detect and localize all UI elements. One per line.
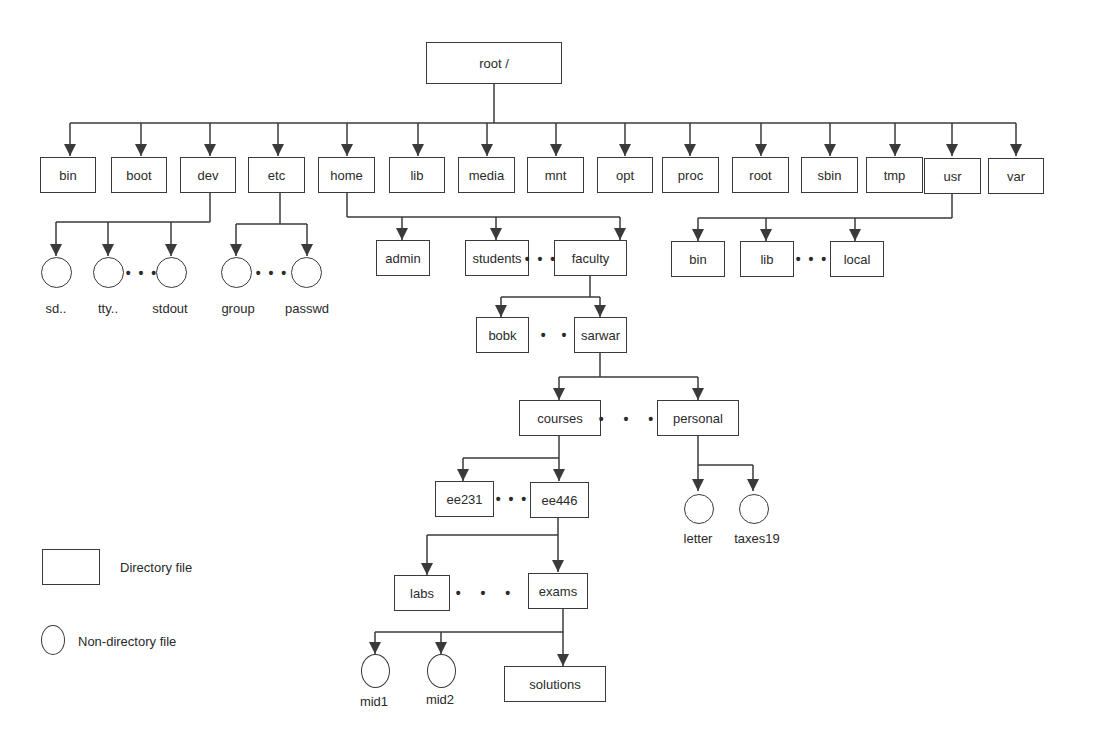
node-usr: usr: [924, 158, 981, 194]
label-tty: tty..: [98, 301, 118, 316]
label-taxes19: taxes19: [734, 531, 780, 546]
ellipsis-home: • • •: [525, 251, 557, 267]
node-root: root /: [426, 42, 562, 84]
file-passwd: [291, 257, 322, 288]
label-group: group: [221, 301, 254, 316]
label-mid2: mid2: [426, 692, 454, 707]
legend-directory-label: Directory file: [120, 560, 192, 575]
node-usr-lib: lib: [740, 241, 794, 277]
node-bobk: bobk: [476, 317, 529, 353]
node-bin: bin: [40, 157, 96, 193]
node-faculty: faculty: [554, 240, 627, 276]
node-dev: dev: [180, 157, 236, 193]
ellipsis-usr: • • •: [796, 251, 828, 267]
node-home: home: [318, 157, 375, 193]
node-ee446: ee446: [530, 482, 589, 518]
file-letter: [684, 494, 714, 524]
ellipsis-dev: • • •: [126, 265, 158, 281]
node-ee231: ee231: [435, 481, 494, 517]
label-passwd: passwd: [285, 301, 329, 316]
node-etc: etc: [248, 157, 305, 193]
label-letter: letter: [684, 531, 713, 546]
node-opt: opt: [597, 157, 653, 193]
file-group: [221, 257, 252, 288]
node-mnt: mnt: [527, 157, 584, 193]
node-courses: courses: [519, 400, 601, 436]
node-var: var: [988, 158, 1044, 194]
file-taxes19: [739, 494, 769, 524]
label-mid1: mid1: [360, 694, 388, 709]
file-mid1: [361, 654, 390, 688]
file-sd: [41, 257, 72, 288]
ellipsis-ee446: • • •: [456, 585, 518, 601]
connector-lines: [0, 0, 1117, 737]
node-admin: admin: [376, 240, 430, 276]
node-students: students: [465, 240, 529, 276]
node-exams: exams: [528, 573, 588, 609]
ellipsis-courses: • • •: [496, 491, 528, 507]
file-tty: [93, 257, 124, 288]
node-boot: boot: [111, 157, 167, 193]
label-sd: sd..: [46, 301, 67, 316]
ellipsis-etc: • • •: [256, 265, 288, 281]
node-usr-bin: bin: [671, 241, 725, 277]
node-labs: labs: [394, 575, 450, 611]
node-personal: personal: [657, 400, 739, 436]
node-sarwar: sarwar: [574, 317, 627, 353]
legend-directory-swatch: [42, 549, 100, 585]
node-solutions: solutions: [504, 666, 606, 702]
legend-file-swatch: [41, 625, 65, 655]
node-proc: proc: [662, 157, 719, 193]
node-media: media: [458, 157, 515, 193]
node-lib: lib: [389, 157, 445, 193]
label-stdout: stdout: [152, 301, 187, 316]
node-root-home: root: [732, 157, 789, 193]
node-sbin: sbin: [801, 157, 858, 193]
node-tmp: tmp: [866, 157, 923, 193]
legend-file-label: Non-directory file: [78, 634, 176, 649]
file-stdout: [156, 257, 187, 288]
node-usr-local: local: [830, 241, 884, 277]
ellipsis-sarwar: • • •: [599, 411, 661, 427]
unix-file-tree-diagram: root / bin boot dev etc home lib media m…: [0, 0, 1117, 737]
file-mid2: [427, 654, 456, 688]
